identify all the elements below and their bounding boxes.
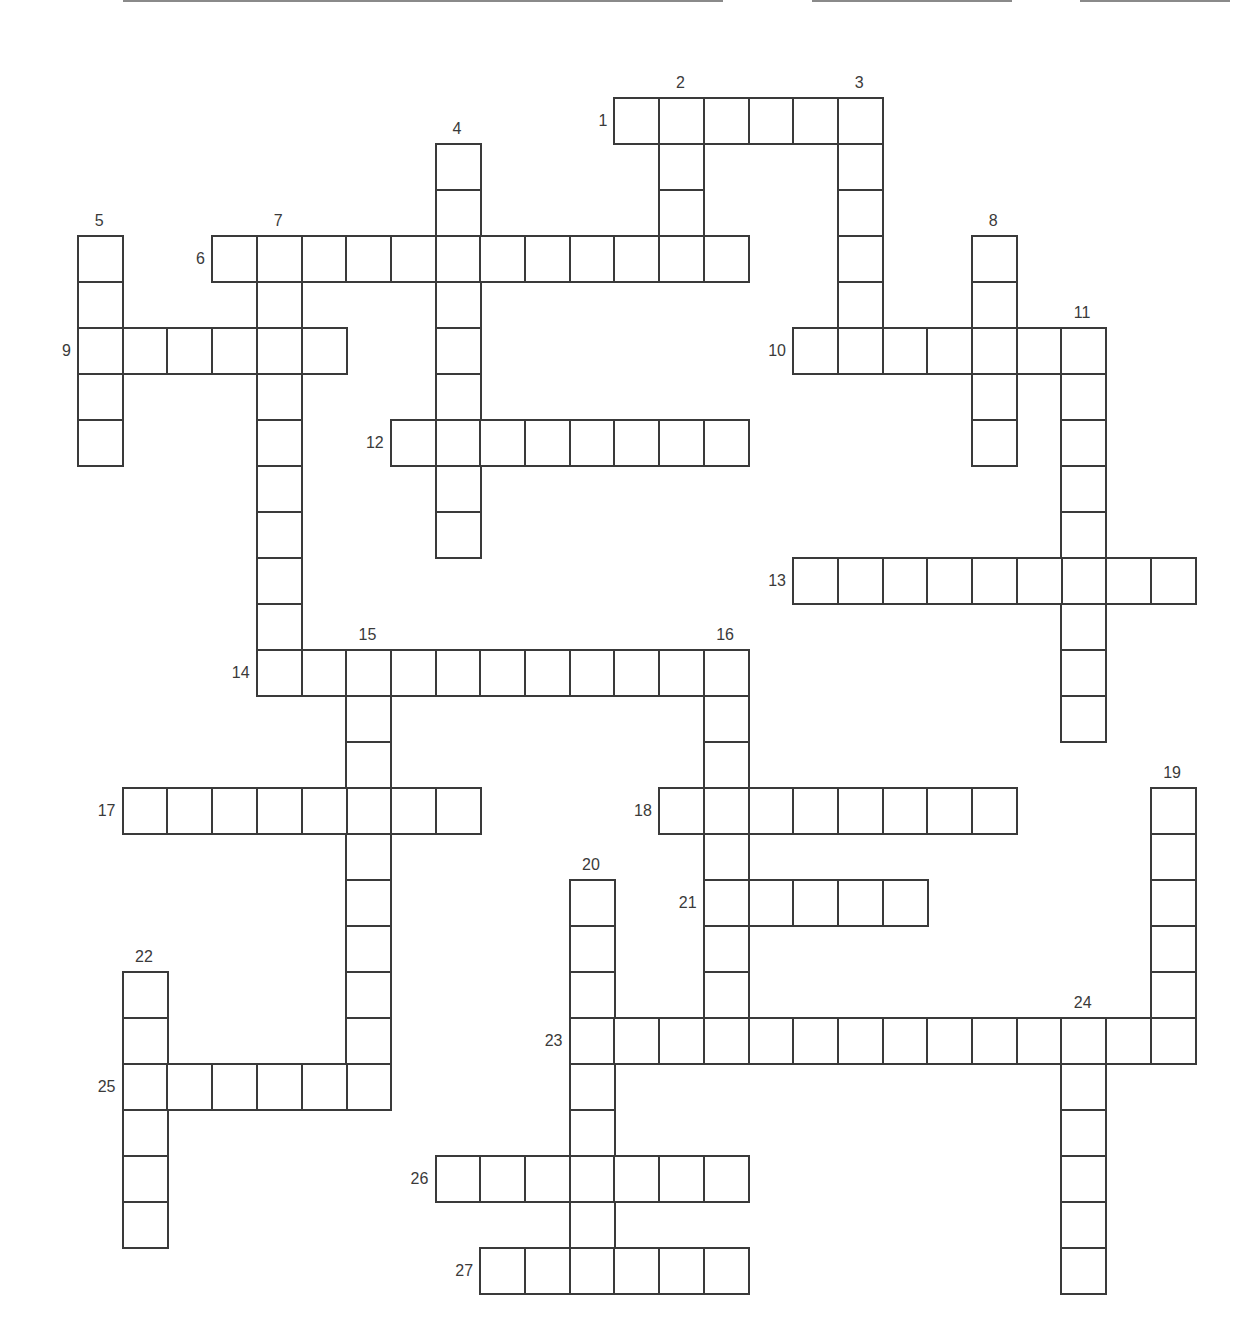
grid-cell[interactable] — [256, 281, 303, 329]
grid-cell[interactable] — [703, 925, 750, 973]
grid-cell[interactable] — [122, 1017, 169, 1065]
grid-cell[interactable] — [211, 787, 258, 835]
grid-cell[interactable] — [256, 511, 303, 559]
grid-cell[interactable] — [569, 649, 616, 697]
grid-cell[interactable] — [613, 649, 660, 697]
grid-cell[interactable] — [122, 971, 169, 1019]
grid-cell[interactable] — [435, 373, 482, 421]
grid-cell[interactable] — [792, 327, 839, 375]
grid-cell[interactable] — [926, 787, 973, 835]
grid-cell[interactable] — [122, 1155, 169, 1203]
grid-cell[interactable] — [435, 419, 482, 467]
grid-cell[interactable] — [569, 1201, 616, 1249]
grid-cell[interactable] — [703, 649, 750, 697]
grid-cell[interactable] — [256, 465, 303, 513]
grid-cell[interactable] — [792, 787, 839, 835]
grid-cell[interactable] — [971, 557, 1018, 605]
grid-cell[interactable] — [658, 1017, 705, 1065]
grid-cell[interactable] — [792, 557, 839, 605]
grid-cell[interactable] — [569, 879, 616, 927]
grid-cell[interactable] — [345, 1017, 392, 1065]
grid-cell[interactable] — [658, 419, 705, 467]
grid-cell[interactable] — [569, 925, 616, 973]
grid-cell[interactable] — [256, 557, 303, 605]
grid-cell[interactable] — [479, 649, 526, 697]
grid-cell[interactable] — [971, 419, 1018, 467]
grid-cell[interactable] — [1105, 1017, 1152, 1065]
grid-cell[interactable] — [703, 97, 750, 145]
grid-cell[interactable] — [1060, 649, 1107, 697]
grid-cell[interactable] — [1150, 971, 1197, 1019]
grid-cell[interactable] — [569, 1063, 616, 1111]
grid-cell[interactable] — [971, 373, 1018, 421]
grid-cell[interactable] — [926, 1017, 973, 1065]
grid-cell[interactable] — [703, 879, 750, 927]
grid-cell[interactable] — [703, 1247, 750, 1295]
grid-cell[interactable] — [971, 787, 1018, 835]
grid-cell[interactable] — [1150, 787, 1197, 835]
grid-cell[interactable] — [658, 1247, 705, 1295]
grid-cell[interactable] — [1060, 1155, 1107, 1203]
grid-cell[interactable] — [435, 1155, 482, 1203]
grid-cell[interactable] — [1060, 1247, 1107, 1295]
grid-cell[interactable] — [479, 1247, 526, 1295]
grid-cell[interactable] — [524, 649, 571, 697]
grid-cell[interactable] — [703, 787, 750, 835]
grid-cell[interactable] — [435, 189, 482, 237]
grid-cell[interactable] — [77, 373, 124, 421]
grid-cell[interactable] — [301, 1063, 348, 1111]
grid-cell[interactable] — [748, 787, 795, 835]
grid-cell[interactable] — [211, 327, 258, 375]
grid-cell[interactable] — [1150, 925, 1197, 973]
grid-cell[interactable] — [1150, 1017, 1197, 1065]
grid-cell[interactable] — [211, 235, 258, 283]
grid-cell[interactable] — [703, 833, 750, 881]
grid-cell[interactable] — [256, 649, 303, 697]
grid-cell[interactable] — [613, 97, 660, 145]
grid-cell[interactable] — [1060, 419, 1107, 467]
grid-cell[interactable] — [166, 327, 213, 375]
grid-cell[interactable] — [1060, 327, 1107, 375]
grid-cell[interactable] — [524, 1155, 571, 1203]
grid-cell[interactable] — [1060, 1063, 1107, 1111]
grid-cell[interactable] — [1016, 1017, 1063, 1065]
grid-cell[interactable] — [569, 971, 616, 1019]
grid-cell[interactable] — [703, 419, 750, 467]
grid-cell[interactable] — [613, 419, 660, 467]
grid-cell[interactable] — [658, 235, 705, 283]
grid-cell[interactable] — [613, 1017, 660, 1065]
grid-cell[interactable] — [926, 327, 973, 375]
grid-cell[interactable] — [613, 1247, 660, 1295]
grid-cell[interactable] — [345, 971, 392, 1019]
grid-cell[interactable] — [837, 281, 884, 329]
grid-cell[interactable] — [971, 1017, 1018, 1065]
grid-cell[interactable] — [1150, 833, 1197, 881]
grid-cell[interactable] — [77, 235, 124, 283]
grid-cell[interactable] — [1016, 327, 1063, 375]
grid-cell[interactable] — [479, 235, 526, 283]
grid-cell[interactable] — [435, 281, 482, 329]
grid-cell[interactable] — [837, 327, 884, 375]
grid-cell[interactable] — [703, 695, 750, 743]
grid-cell[interactable] — [1060, 511, 1107, 559]
grid-cell[interactable] — [435, 235, 482, 283]
grid-cell[interactable] — [837, 1017, 884, 1065]
grid-cell[interactable] — [479, 419, 526, 467]
grid-cell[interactable] — [837, 787, 884, 835]
grid-cell[interactable] — [971, 235, 1018, 283]
grid-cell[interactable] — [613, 235, 660, 283]
grid-cell[interactable] — [1105, 557, 1152, 605]
grid-cell[interactable] — [658, 649, 705, 697]
grid-cell[interactable] — [301, 235, 348, 283]
grid-cell[interactable] — [211, 1063, 258, 1111]
grid-cell[interactable] — [882, 879, 929, 927]
grid-cell[interactable] — [1060, 557, 1107, 605]
grid-cell[interactable] — [77, 327, 124, 375]
grid-cell[interactable] — [569, 1109, 616, 1157]
grid-cell[interactable] — [837, 557, 884, 605]
grid-cell[interactable] — [837, 879, 884, 927]
grid-cell[interactable] — [390, 649, 437, 697]
grid-cell[interactable] — [345, 879, 392, 927]
grid-cell[interactable] — [792, 879, 839, 927]
grid-cell[interactable] — [882, 1017, 929, 1065]
